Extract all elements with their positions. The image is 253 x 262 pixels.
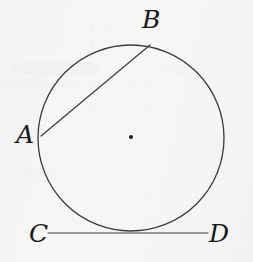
- geometry-figure: A B C D: [0, 0, 253, 262]
- point-label-D: D: [209, 221, 229, 246]
- circle-center-dot: [129, 135, 133, 139]
- chord-AB-line: [41, 45, 150, 136]
- point-label-A: A: [16, 122, 34, 147]
- point-label-B: B: [142, 7, 160, 32]
- point-label-C: C: [29, 221, 48, 246]
